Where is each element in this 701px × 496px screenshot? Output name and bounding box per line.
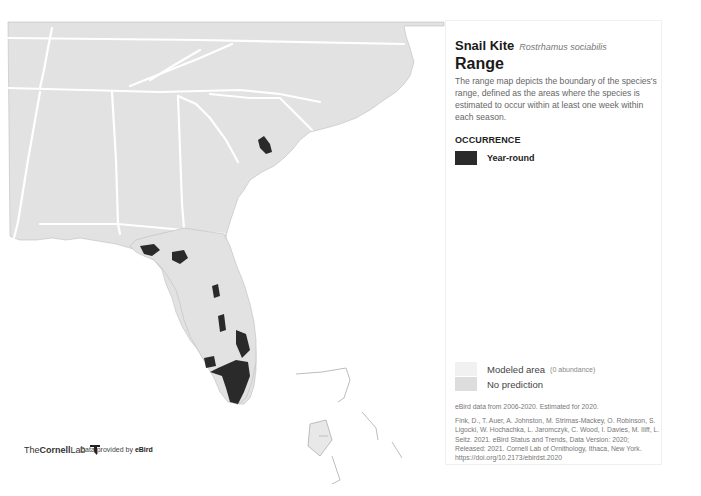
species-common-name: Snail Kite xyxy=(455,38,514,53)
section-title: Range xyxy=(455,55,504,73)
data-provider[interactable]: Data provided by eBird xyxy=(80,446,153,453)
section-description: The range map depicts the boundary of th… xyxy=(455,75,660,123)
occurrence-heading: OCCURRENCE xyxy=(455,135,521,145)
legend-label: No prediction xyxy=(487,379,543,390)
modeled-area-swatch xyxy=(455,362,477,376)
legend-item-no-prediction: No prediction xyxy=(455,377,543,391)
no-prediction-swatch xyxy=(455,377,477,391)
legend-label: Modeled area xyxy=(487,364,545,375)
logo-bold: Cornell xyxy=(40,445,71,455)
citation: Fink, D., T. Auer, A. Johnston, M. Strim… xyxy=(455,416,660,462)
legend-label: Year-round xyxy=(487,153,535,163)
ebird-brand: eBird xyxy=(135,446,153,453)
year-round-swatch xyxy=(455,151,477,165)
logo-prefix: The xyxy=(24,445,40,455)
provided-prefix: Data provided by xyxy=(80,446,133,453)
islands xyxy=(296,368,402,484)
legend-item-year-round: Year-round xyxy=(455,151,535,165)
data-note: eBird data from 2006-2020. Estimated for… xyxy=(455,403,599,410)
species-title: Snail KiteRostrhamus sociabilis xyxy=(455,36,607,54)
species-scientific-name: Rostrhamus sociabilis xyxy=(519,42,607,52)
legend-note: (0 abundance) xyxy=(550,366,595,373)
legend-item-modeled-area: Modeled area (0 abundance) xyxy=(455,362,595,376)
legend-panel: Snail KiteRostrhamus sociabilis Range Th… xyxy=(445,20,662,465)
